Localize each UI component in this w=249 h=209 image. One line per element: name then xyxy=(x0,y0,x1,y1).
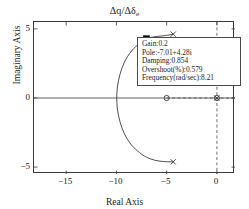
x-tick-label: 0 xyxy=(214,176,219,186)
x-tick-label: −15 xyxy=(58,176,72,186)
x-axis-label: Real Axis xyxy=(0,197,249,207)
root-locus-lower-branch xyxy=(117,98,173,162)
root-locus-figure: Δq/Δδe Imaginary Axis Real Axis −15−10−5… xyxy=(0,0,249,209)
x-tick-label: −5 xyxy=(161,176,171,186)
chart-title-subscript: e xyxy=(136,10,139,18)
y-tick-label: 0 xyxy=(15,92,30,102)
y-tick-label: 5 xyxy=(15,23,30,33)
chart-title: Δq/Δδe xyxy=(0,5,249,18)
x-tick-label: −10 xyxy=(108,176,122,186)
y-tick-label: −5 xyxy=(15,161,30,171)
data-tip-box[interactable]: Gain:0.2 Pole:-7.01+4.28i Damping:0.854 … xyxy=(137,37,241,86)
chart-title-main: Δq/Δδ xyxy=(110,5,136,16)
datatip-frequency: Frequency(rad/sec):8.21 xyxy=(142,74,237,83)
